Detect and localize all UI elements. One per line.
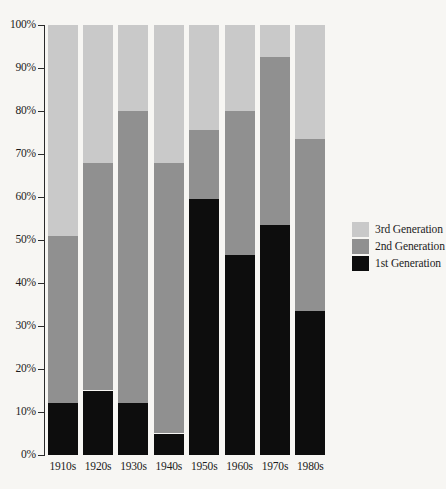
- y-axis-tick-label: 0%: [0, 449, 36, 461]
- x-axis-tick-label: 1980s: [293, 460, 328, 473]
- bar-segment-3rd-generation[interactable]: [225, 25, 255, 111]
- y-axis-tick-label: 20%: [0, 363, 36, 375]
- bar-segment-3rd-generation[interactable]: [295, 25, 325, 139]
- bar-segment-1st-generation[interactable]: [260, 225, 290, 455]
- bar-group[interactable]: [83, 25, 113, 455]
- y-axis-tick: [38, 197, 44, 198]
- bar-group[interactable]: [189, 25, 219, 455]
- y-axis-tick: [38, 369, 44, 370]
- bar-group[interactable]: [118, 25, 148, 455]
- bar-segment-2nd-generation[interactable]: [83, 163, 113, 391]
- legend-label-gen3: 3rd Generation: [375, 223, 443, 235]
- bar-segment-2nd-generation[interactable]: [295, 139, 325, 311]
- bar-group[interactable]: [225, 25, 255, 455]
- y-axis-tick: [38, 326, 44, 327]
- bar-group[interactable]: [154, 25, 184, 455]
- bar-segment-1st-generation[interactable]: [189, 199, 219, 455]
- bar-segment-2nd-generation[interactable]: [260, 57, 290, 225]
- legend-swatch-gen3: [352, 222, 369, 237]
- x-axis-tick-label: 1910s: [45, 460, 80, 473]
- bar-segment-2nd-generation[interactable]: [48, 236, 78, 404]
- y-axis-tick-label: 70%: [0, 148, 36, 160]
- x-axis-tick-label: 1970s: [257, 460, 292, 473]
- bar-group[interactable]: [48, 25, 78, 455]
- bar-segment-2nd-generation[interactable]: [189, 130, 219, 199]
- plot-area: [45, 25, 328, 455]
- bar-group[interactable]: [295, 25, 325, 455]
- y-axis-tick: [38, 111, 44, 112]
- x-axis-tick-label: 1960s: [222, 460, 257, 473]
- y-axis-tick-label: 10%: [0, 406, 36, 418]
- bar-segment-1st-generation[interactable]: [48, 403, 78, 455]
- y-axis-tick-label: 90%: [0, 62, 36, 74]
- y-axis-tick-label: 50%: [0, 234, 36, 246]
- bar-segment-1st-generation[interactable]: [83, 391, 113, 456]
- legend-item-gen3[interactable]: 3rd Generation: [352, 221, 445, 237]
- bar-segment-3rd-generation[interactable]: [48, 25, 78, 236]
- x-axis-tick-label: 1950s: [187, 460, 222, 473]
- x-axis-tick-label: 1940s: [151, 460, 186, 473]
- legend-item-gen1[interactable]: 1st Generation: [352, 255, 445, 271]
- legend-label-gen2: 2nd Generation: [375, 240, 445, 252]
- legend-label-gen1: 1st Generation: [375, 257, 441, 269]
- x-axis-tick-label: 1920s: [80, 460, 115, 473]
- y-axis-tick: [38, 283, 44, 284]
- bar-segment-3rd-generation[interactable]: [260, 25, 290, 57]
- y-axis-tick: [38, 68, 44, 69]
- legend-item-gen2[interactable]: 2nd Generation: [352, 238, 445, 254]
- y-axis-tick: [38, 412, 44, 413]
- legend-swatch-gen1: [352, 256, 369, 271]
- bar-segment-1st-generation[interactable]: [154, 434, 184, 456]
- stacked-bar-chart: 100%90%80%70%60%50%40%30%20%10%0% 1910s1…: [0, 0, 446, 489]
- bar-segment-3rd-generation[interactable]: [189, 25, 219, 130]
- bar-segment-1st-generation[interactable]: [118, 403, 148, 455]
- x-axis-tick-label: 1930s: [116, 460, 151, 473]
- y-axis-tick-label: 60%: [0, 191, 36, 203]
- bar-segment-3rd-generation[interactable]: [154, 25, 184, 163]
- bar-group[interactable]: [260, 25, 290, 455]
- legend-swatch-gen2: [352, 239, 369, 254]
- bar-segment-1st-generation[interactable]: [225, 255, 255, 455]
- y-axis-tick-label: 30%: [0, 320, 36, 332]
- bar-segment-1st-generation[interactable]: [295, 311, 325, 455]
- y-axis-tick-label: 40%: [0, 277, 36, 289]
- bar-segment-3rd-generation[interactable]: [118, 25, 148, 111]
- y-axis-tick: [38, 240, 44, 241]
- y-axis-tick: [38, 154, 44, 155]
- bar-segment-3rd-generation[interactable]: [83, 25, 113, 163]
- y-axis-tick-label: 80%: [0, 105, 36, 117]
- y-axis-tick: [38, 25, 44, 26]
- y-axis-tick-label: 100%: [0, 19, 36, 31]
- bar-segment-2nd-generation[interactable]: [118, 111, 148, 403]
- bar-segment-2nd-generation[interactable]: [225, 111, 255, 255]
- bar-segment-2nd-generation[interactable]: [154, 163, 184, 434]
- chart-legend: 3rd Generation2nd Generation1st Generati…: [352, 221, 445, 272]
- x-axis-line: [44, 455, 45, 456]
